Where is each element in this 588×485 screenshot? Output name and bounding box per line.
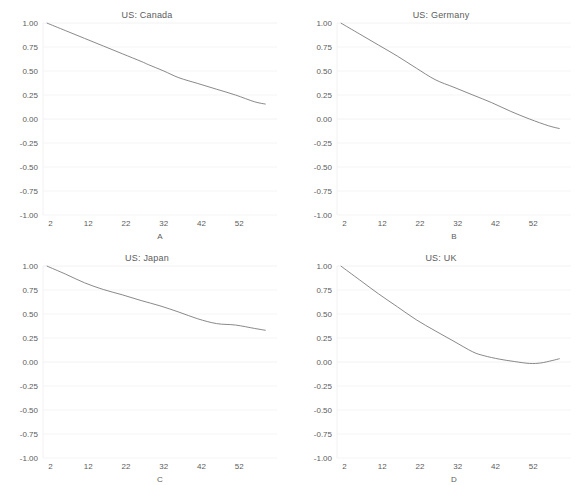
y-tick-label: 0.50	[316, 67, 332, 76]
x-tick-label: 12	[84, 462, 93, 471]
x-tick-label: 32	[159, 219, 168, 228]
x-tick-label: 2	[48, 219, 52, 228]
x-axis-label: A	[43, 232, 277, 241]
x-axis-label: D	[337, 475, 571, 484]
y-tick-label: 0.50	[22, 67, 38, 76]
panel-title: US: UK	[294, 253, 588, 263]
x-tick-label: 52	[235, 462, 244, 471]
x-tick-label: 22	[416, 219, 425, 228]
y-tick-label: -0.25	[314, 139, 332, 148]
y-tick-label: -0.75	[20, 430, 38, 439]
x-axis-label: C	[43, 475, 277, 484]
y-tick-label: -1.00	[314, 211, 332, 220]
y-tick-label: -1.00	[20, 454, 38, 463]
x-axis-ticks: D 21222324252	[337, 266, 571, 458]
x-tick-label: 2	[342, 462, 346, 471]
panel-us-canada: US: Canada 1.000.750.500.250.00-0.25-0.5…	[0, 0, 294, 242]
x-tick-label: 22	[122, 219, 131, 228]
y-tick-label: -0.75	[314, 430, 332, 439]
x-axis-ticks: A 21222324252	[43, 23, 277, 215]
x-tick-label: 12	[84, 219, 93, 228]
y-tick-label: 0.00	[316, 358, 332, 367]
y-tick-label: 0.75	[22, 286, 38, 295]
y-tick-label: -0.25	[314, 382, 332, 391]
x-tick-label: 42	[491, 462, 500, 471]
y-tick-label: 0.75	[316, 286, 332, 295]
x-tick-label: 42	[197, 462, 206, 471]
y-tick-label: 1.00	[22, 19, 38, 28]
panel-title: US: Germany	[294, 10, 588, 20]
x-axis-ticks: C 21222324252	[43, 266, 277, 458]
x-tick-label: 2	[342, 219, 346, 228]
x-tick-label: 32	[453, 462, 462, 471]
y-tick-label: 0.25	[22, 334, 38, 343]
y-tick-label: 0.00	[316, 115, 332, 124]
y-tick-label: -0.50	[20, 406, 38, 415]
panel-us-uk: US: UK 1.000.750.500.250.00-0.25-0.50-0.…	[294, 243, 588, 485]
x-tick-label: 52	[529, 462, 538, 471]
y-tick-label: 1.00	[22, 262, 38, 271]
y-tick-label: -0.75	[20, 187, 38, 196]
panel-title: US: Canada	[0, 10, 294, 20]
y-tick-label: -1.00	[20, 211, 38, 220]
y-tick-label: 0.00	[22, 115, 38, 124]
y-tick-label: -0.75	[314, 187, 332, 196]
panel-us-germany: US: Germany 1.000.750.500.250.00-0.25-0.…	[294, 0, 588, 242]
y-tick-label: 1.00	[316, 262, 332, 271]
y-tick-label: -0.50	[314, 406, 332, 415]
x-tick-label: 12	[378, 219, 387, 228]
x-tick-label: 52	[529, 219, 538, 228]
x-tick-label: 42	[197, 219, 206, 228]
y-tick-label: -0.50	[314, 163, 332, 172]
y-tick-label: 0.25	[316, 91, 332, 100]
x-tick-label: 32	[159, 462, 168, 471]
x-tick-label: 52	[235, 219, 244, 228]
figure-canvas: US: Canada 1.000.750.500.250.00-0.25-0.5…	[0, 0, 588, 485]
x-axis-label: B	[337, 232, 571, 241]
panel-title: US: Japan	[0, 253, 294, 263]
y-tick-label: 0.75	[316, 43, 332, 52]
y-tick-label: 0.25	[22, 91, 38, 100]
x-tick-label: 12	[378, 462, 387, 471]
y-tick-label: 0.50	[22, 310, 38, 319]
y-tick-label: -1.00	[314, 454, 332, 463]
x-tick-label: 22	[122, 462, 131, 471]
y-tick-label: -0.25	[20, 139, 38, 148]
x-tick-label: 32	[453, 219, 462, 228]
y-tick-label: 0.50	[316, 310, 332, 319]
y-tick-label: 1.00	[316, 19, 332, 28]
y-tick-label: -0.50	[20, 163, 38, 172]
x-tick-label: 42	[491, 219, 500, 228]
y-tick-label: 0.25	[316, 334, 332, 343]
panel-us-japan: US: Japan 1.000.750.500.250.00-0.25-0.50…	[0, 243, 294, 485]
y-tick-label: 0.75	[22, 43, 38, 52]
x-tick-label: 2	[48, 462, 52, 471]
x-axis-ticks: B 21222324252	[337, 23, 571, 215]
y-tick-label: -0.25	[20, 382, 38, 391]
y-tick-label: 0.00	[22, 358, 38, 367]
x-tick-label: 22	[416, 462, 425, 471]
